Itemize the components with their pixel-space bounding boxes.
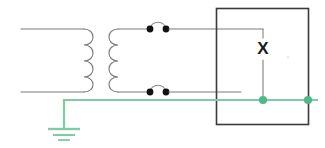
image-speck bbox=[287, 56, 289, 58]
switch-top[interactable] bbox=[147, 22, 263, 32]
switch-top-left-contact bbox=[147, 26, 154, 33]
secondary-winding-arcs bbox=[109, 29, 118, 92]
circuit-diagram bbox=[0, 0, 325, 148]
secondary-coil bbox=[109, 29, 147, 92]
primary-coil bbox=[21, 29, 93, 92]
ground-symbol bbox=[48, 129, 80, 140]
switch-top-right-contact bbox=[163, 26, 170, 33]
junction-dot-edge bbox=[304, 96, 312, 104]
schematic-canvas: X bbox=[0, 0, 325, 148]
switch-bottom-left-contact bbox=[147, 89, 154, 96]
primary-winding-arcs bbox=[84, 29, 93, 92]
junction-dot-inner bbox=[259, 96, 267, 104]
switch-bottom-right-contact bbox=[163, 89, 170, 96]
switch-bottom[interactable] bbox=[147, 85, 241, 95]
x-terminal-label: X bbox=[254, 40, 272, 58]
